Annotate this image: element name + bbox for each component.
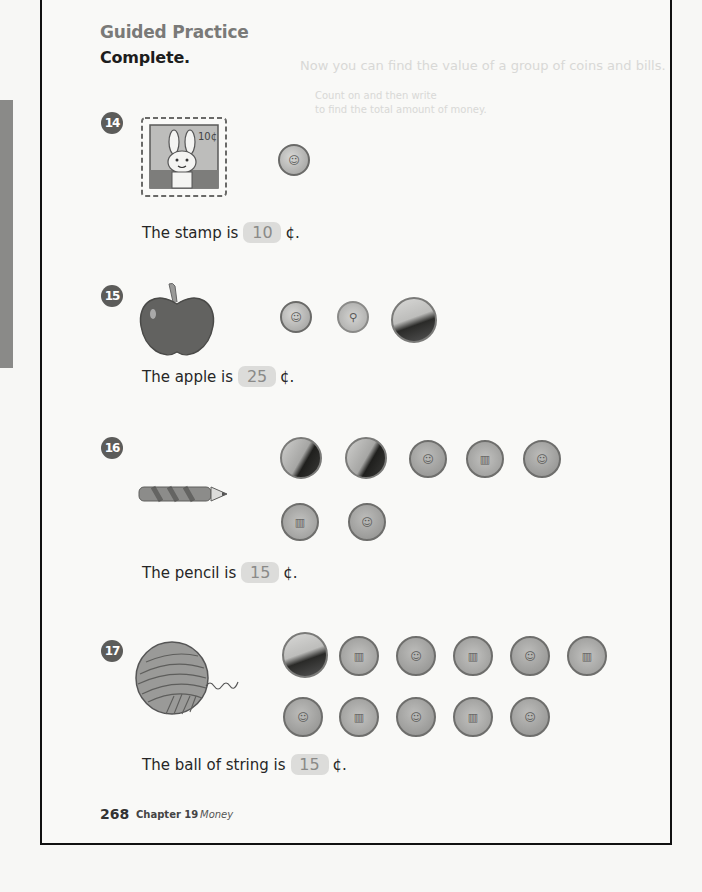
nickel-tails-coin-icon — [391, 297, 437, 343]
penny-heads-coin-icon: ☺ — [523, 440, 561, 478]
answer-box[interactable]: 15 — [291, 754, 329, 775]
penny-heads-coin-icon: ☺ — [510, 697, 550, 737]
problem-number-badge: 16 — [101, 437, 123, 459]
penny-heads-coin-icon: ☺ — [283, 697, 323, 737]
instruction-text: Complete. — [100, 48, 190, 67]
sentence-prefix: The ball of string is — [142, 756, 286, 774]
cent-unit: ¢. — [280, 368, 294, 386]
penny-heads-coin-icon: ☺ — [396, 697, 436, 737]
chapter-topic: Money — [200, 809, 233, 820]
svg-text:10¢: 10¢ — [198, 131, 217, 142]
answer-sentence: The stamp is 10 ¢. — [142, 222, 300, 243]
penny-tails-coin-icon: ▥ — [453, 697, 493, 737]
answer-sentence: The apple is 25 ¢. — [142, 366, 294, 387]
dime-coin-icon: ☺ — [278, 144, 310, 176]
penny-heads-coin-icon: ☺ — [348, 503, 386, 541]
nickel-tails-coin-icon — [282, 632, 328, 678]
page-number: 268 — [100, 806, 129, 822]
cent-unit: ¢. — [333, 756, 347, 774]
dime-heads-coin-icon: ☺ — [280, 301, 312, 333]
bleed-through-text: to find the total amount of money. — [315, 104, 487, 115]
answer-box[interactable]: 10 — [243, 222, 281, 243]
cent-unit: ¢. — [283, 564, 297, 582]
penny-heads-coin-icon: ☺ — [510, 636, 550, 676]
dime-tails-coin-icon: ⚲ — [337, 301, 369, 333]
penny-tails-coin-icon: ▥ — [281, 503, 319, 541]
sentence-prefix: The apple is — [142, 368, 233, 386]
answer-box[interactable]: 25 — [238, 366, 276, 387]
penny-heads-coin-icon: ☺ — [396, 636, 436, 676]
problem-number-badge: 15 — [101, 285, 123, 307]
penny-heads-coin-icon: ☺ — [409, 440, 447, 478]
pencil-icon — [137, 484, 229, 504]
problem-number-badge: 14 — [101, 112, 123, 134]
bleed-through-text: Now you can find the value of a group of… — [300, 58, 666, 73]
penny-tails-coin-icon: ▥ — [453, 636, 493, 676]
apple-icon — [137, 280, 217, 360]
penny-tails-coin-icon: ▥ — [466, 440, 504, 478]
chapter-label: Chapter 19 — [136, 809, 198, 820]
cent-unit: ¢. — [285, 224, 299, 242]
answer-sentence: The ball of string is 15 ¢. — [142, 754, 347, 775]
sentence-prefix: The stamp is — [142, 224, 238, 242]
section-title: Guided Practice — [100, 22, 249, 42]
chapter-edge-tab — [0, 100, 13, 368]
bleed-through-text: Count on and then write — [315, 90, 437, 101]
answer-sentence: The pencil is 15 ¢. — [142, 562, 298, 583]
answer-box[interactable]: 15 — [241, 562, 279, 583]
penny-tails-coin-icon: ▥ — [567, 636, 607, 676]
penny-tails-coin-icon: ▥ — [339, 697, 379, 737]
nickel-heads-coin-icon — [280, 437, 322, 479]
ball-of-string-icon — [134, 638, 244, 718]
problem-number-badge: 17 — [101, 640, 123, 662]
stamp-icon: 10¢ — [138, 114, 230, 200]
penny-tails-coin-icon: ▥ — [339, 636, 379, 676]
nickel-heads-coin-icon — [345, 437, 387, 479]
sentence-prefix: The pencil is — [142, 564, 236, 582]
